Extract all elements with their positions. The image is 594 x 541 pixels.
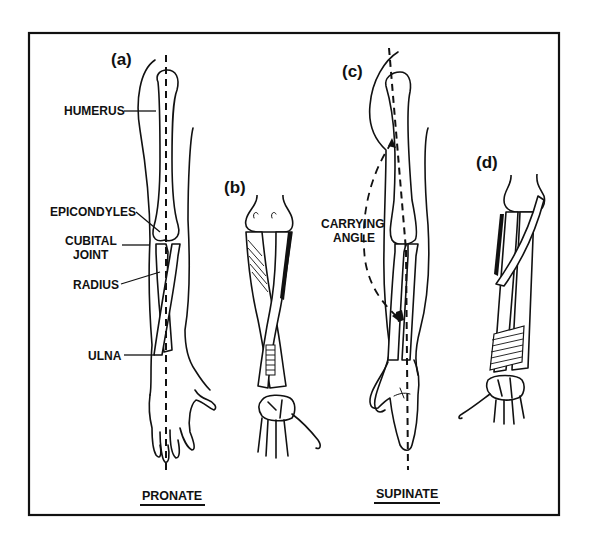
pronator-muscle-hatch-b — [266, 345, 275, 375]
panel-a-pronate-arm: (a) — [111, 50, 216, 472]
label-joint: JOINT — [73, 248, 109, 262]
forearm-pronation-supination-diagram: (a) HUMERUS EPICONDYLES CUBITAL JOINT RA… — [0, 0, 594, 541]
label-carrying: CARRYING — [321, 217, 385, 231]
panel-c-label: (c) — [342, 62, 363, 81]
caption-pronate-text: PRONATE — [142, 489, 202, 503]
hand-a — [149, 390, 215, 462]
panel-b-pronate-forearm: (b) — [224, 178, 320, 458]
hand-c — [370, 360, 419, 450]
panel-d-supinate-forearm: (d) — [459, 153, 545, 424]
caption-supinate: SUPINATE — [374, 487, 440, 503]
labels-panel-c: CARRYING ANGLE — [321, 217, 385, 245]
panel-a-label: (a) — [111, 50, 132, 69]
carpals-b — [259, 395, 295, 421]
label-ulna: ULNA — [88, 349, 122, 363]
caption-pronate: PRONATE — [140, 489, 205, 505]
panel-b-label: (b) — [224, 178, 246, 197]
leader-radius — [121, 272, 160, 284]
arm-c-outline-right — [416, 128, 429, 375]
label-angle: ANGLE — [333, 231, 375, 245]
carpals-d — [487, 376, 524, 401]
label-cubital: CUBITAL — [65, 234, 117, 248]
labels-panel-a: HUMERUS EPICONDYLES CUBITAL JOINT RADIUS… — [50, 104, 160, 363]
label-humerus: HUMERUS — [64, 104, 125, 118]
caption-supinate-text: SUPINATE — [376, 487, 438, 501]
finger-bones-b — [258, 414, 320, 458]
arm-a-outline-left — [138, 60, 155, 395]
panel-d-label: (d) — [476, 153, 498, 172]
label-radius: RADIUS — [73, 278, 119, 292]
arm-a-outline-right — [185, 128, 210, 390]
ulna-bone-c — [402, 244, 418, 360]
panel-c-supinate-arm: (c) — [342, 48, 429, 470]
label-epicondyles: EPICONDYLES — [50, 205, 136, 219]
humerus-bone-c — [386, 72, 417, 245]
elbow-condyles-b — [246, 195, 293, 232]
